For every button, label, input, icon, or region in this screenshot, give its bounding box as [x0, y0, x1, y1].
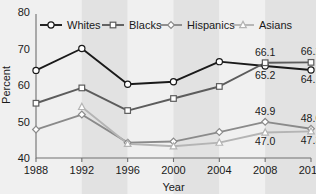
legend-label: Hispanics	[187, 19, 235, 31]
y-tick-label: 50	[18, 116, 30, 128]
series-marker-whites	[216, 59, 222, 65]
legend-label: Whites	[67, 19, 101, 31]
x-tick-label: 1988	[24, 164, 48, 176]
value-label: 47.3	[301, 134, 316, 146]
series-marker-whites	[125, 81, 131, 87]
line-chart: 4050607080 1988199219962000200420082012 …	[0, 0, 316, 194]
series-marker-blacks	[308, 60, 314, 66]
legend-marker-square-icon	[110, 22, 116, 28]
series-marker-whites	[79, 45, 85, 51]
x-tick-label: 1996	[115, 164, 139, 176]
series-marker-blacks	[217, 84, 223, 90]
x-tick-label: 2000	[161, 164, 185, 176]
y-tick-label: 40	[18, 152, 30, 164]
x-tick-label: 2004	[207, 164, 231, 176]
y-tick-label: 70	[18, 43, 30, 55]
value-label: 64.1	[301, 73, 316, 85]
value-label: 48.0	[301, 112, 316, 124]
legend-label: Asians	[259, 19, 293, 31]
y-tick-label: 80	[18, 6, 30, 18]
value-label: 47.0	[255, 135, 276, 147]
series-marker-blacks	[125, 108, 131, 114]
value-label: 49.9	[255, 105, 276, 117]
series-marker-blacks	[171, 96, 177, 102]
x-axis-title: Year	[162, 181, 185, 193]
series-marker-blacks	[79, 85, 85, 91]
y-axis-title: Percent	[0, 66, 12, 104]
legend-marker-circle-icon	[48, 22, 54, 28]
series-marker-whites	[33, 67, 39, 73]
value-label: 65.2	[255, 69, 276, 81]
x-tick-label: 2012	[299, 164, 316, 176]
y-tick-label: 60	[18, 79, 30, 91]
value-label: 66.2	[301, 45, 316, 57]
value-label: 66.1	[255, 46, 276, 58]
legend-label: Blacks	[129, 19, 162, 31]
chart-container: 4050607080 1988199219962000200420082012 …	[0, 0, 316, 194]
series-marker-whites	[170, 79, 176, 85]
series-marker-blacks	[33, 100, 39, 106]
x-tick-label: 1992	[70, 164, 94, 176]
x-tick-label: 2008	[253, 164, 277, 176]
series-marker-blacks	[262, 60, 268, 66]
